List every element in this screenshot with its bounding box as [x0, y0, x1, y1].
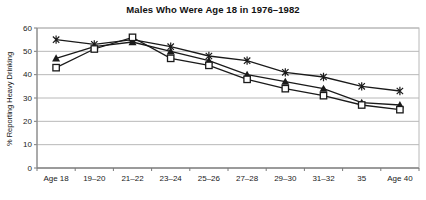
square-marker-icon [282, 85, 288, 91]
asterisk-series-line [56, 40, 400, 91]
x-tick-label: 29–30 [274, 174, 297, 183]
y-tick-label: 20 [23, 117, 32, 126]
x-tick-label: Age 40 [387, 174, 413, 183]
x-tick-label: 19–20 [83, 174, 106, 183]
square-marker-icon [320, 92, 326, 98]
y-tick-label: 0 [28, 164, 33, 173]
y-tick-label: 60 [23, 24, 32, 33]
square-marker-icon [359, 102, 365, 108]
x-tick-label: 35 [357, 174, 366, 183]
x-tick-label: 23–24 [160, 174, 183, 183]
x-tick-label: 21–22 [121, 174, 144, 183]
square-marker-icon [206, 62, 212, 68]
square-series-line [56, 37, 400, 109]
y-tick-label: 10 [23, 140, 32, 149]
y-tick-label: 30 [23, 94, 32, 103]
x-tick-label: 27–28 [236, 174, 259, 183]
x-tick-label: 25–26 [198, 174, 221, 183]
square-marker-icon [129, 34, 135, 40]
square-marker-icon [91, 46, 97, 52]
square-marker-icon [244, 76, 250, 82]
x-tick-label: 31–32 [312, 174, 335, 183]
square-marker-icon [397, 106, 403, 112]
chart-svg: 0102030405060Age 1819–2021–2223–2425–262… [0, 0, 426, 200]
chart-figure: Males Who Were Age 18 in 1976–1982 % Rep… [0, 0, 426, 200]
x-tick-label: Age 18 [43, 174, 69, 183]
y-tick-label: 50 [23, 47, 32, 56]
y-tick-label: 40 [23, 70, 32, 79]
square-marker-icon [53, 64, 59, 70]
square-marker-icon [168, 55, 174, 61]
